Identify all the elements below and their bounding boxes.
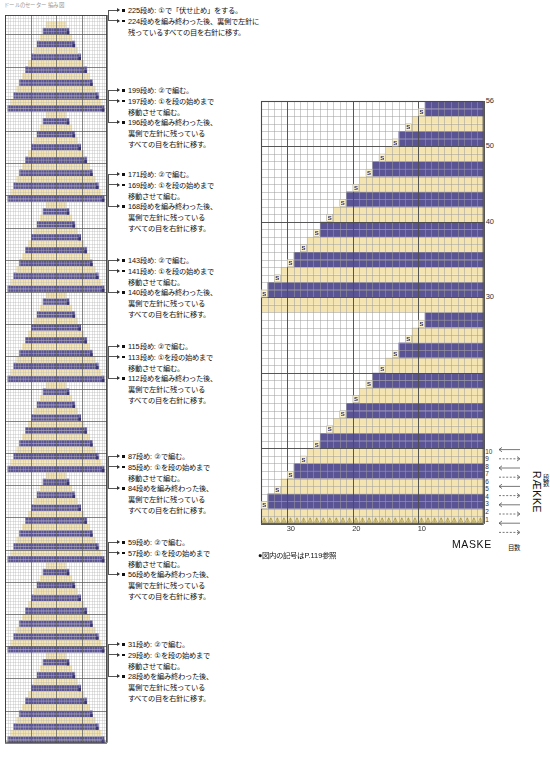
ann-225-arrow-0: [117, 8, 120, 12]
ann-199-line-2: 移動させて編む。: [122, 108, 217, 119]
y-tick-56: 56: [486, 96, 494, 105]
ann-143-line-0: 143段め: ②で編む。: [122, 256, 217, 267]
ann-59-line-0: 59段め: ②で編む。: [122, 538, 213, 549]
ann-225-leader-v-1: [108, 10, 109, 21]
ann-59-line-4: 裏側で左針に残っている: [122, 581, 213, 592]
ann-59-line-2: 移動させて編む。: [122, 560, 213, 571]
ann-87-arrow-0: [117, 454, 120, 458]
x-tick-30: 30: [287, 524, 295, 533]
top-note: ドールのセーター 編み図: [4, 1, 64, 9]
ann-31-line-1: 29段め: ①を段の始めまで: [122, 651, 213, 662]
ann-225-line-2: 残っているすべての目を右針に移す。: [122, 28, 259, 39]
ann-59-leader-v-2: [108, 542, 109, 574]
y-axis-title-sub: 段数: [541, 474, 550, 486]
ann-31-line-2: 移動させて編む。: [122, 662, 213, 673]
ann-59-line-3: 56段めを編み終わった後、: [122, 570, 213, 581]
ann-171-line-1: 169段め: ①を段の始めまで: [122, 181, 217, 192]
ann-87-line-1: 85段め: ①を段の始めまで: [122, 463, 213, 474]
ann-199-leader-v-2: [108, 90, 109, 122]
y-tick-50: 50: [486, 141, 494, 150]
ann-143-leader-v-2: [108, 260, 109, 292]
y-minor-tick-9: 9: [485, 455, 489, 462]
ann-171-arrow-0: [117, 172, 120, 176]
ann-115: 115段め: ②で編む。113段め: ①を段の始めまで移動させて編む。112段め…: [122, 342, 217, 407]
y-minor-tick-6: 6: [485, 478, 489, 485]
y-minor-tick-2: 2: [485, 508, 489, 515]
y-minor-tick-3: 3: [485, 500, 489, 507]
ann-199-arrow-0: [117, 88, 120, 92]
ann-225-line-0: 225段め: ①で「伏せ止め」をする。: [122, 6, 259, 17]
ann-31-line-3: 28段めを編み終わった後、: [122, 672, 213, 683]
ann-143: 143段め: ②で編む。141段め: ①を段の始めまで移動させて編む。140段め…: [122, 256, 217, 321]
ann-59: 59段め: ②で編む。57段め: ①を段の始めまで移動させて編む。56段めを編み…: [122, 538, 213, 603]
ann-199-line-1: 197段め: ①を段の始めまで: [122, 97, 217, 108]
ann-199-line-5: すべての目を右針に移す。: [122, 140, 217, 151]
ann-225-line-1: 224段めを編み終わった後、裏側で左針に: [122, 17, 259, 28]
ann-199-arrow-1: [117, 99, 120, 103]
ann-87-line-5: すべての目を右針に移す。: [122, 506, 213, 517]
ann-143-line-5: すべての目を右針に移す。: [122, 310, 217, 321]
ann-199-line-0: 199段め: ②で編む。: [122, 86, 217, 97]
x-axis-title: MASKE: [452, 538, 492, 550]
y-minor-tick-4: 4: [485, 493, 489, 500]
ann-199-arrow-2: [117, 120, 120, 124]
ann-115-arrow-1: [117, 355, 120, 359]
ann-115-arrow-2: [117, 376, 120, 380]
ann-31: 31段め: ②で編む。29段め: ①を段の始めまで移動させて編む。28段めを編み…: [122, 640, 213, 705]
y-minor-tick-8: 8: [485, 463, 489, 470]
y-tick-40: 40: [486, 217, 494, 226]
ann-31-line-5: すべての目を右針に移す。: [122, 694, 213, 705]
ann-31-line-0: 31段め: ②で編む。: [122, 640, 213, 651]
y-minor-tick-10: 10: [485, 448, 492, 455]
ann-115-line-0: 115段め: ②で編む。: [122, 342, 217, 353]
ann-59-arrow-0: [117, 540, 120, 544]
x-tick-10: 10: [418, 524, 426, 533]
main-pattern-chart: [260, 100, 485, 525]
ann-87-line-0: 87段め: ②で編む。: [122, 452, 213, 463]
ann-87-line-2: 移動させて編む。: [122, 474, 213, 485]
ann-87-arrow-1: [117, 465, 120, 469]
ann-171-arrow-2: [117, 204, 120, 208]
ann-31-line-4: 裏側で左針に残っている: [122, 683, 213, 694]
symbol-reference-note: ●図内の記号はP.119参照: [258, 549, 336, 560]
ann-143-line-3: 140段めを編み終わった後、: [122, 288, 217, 299]
ann-171-arrow-1: [117, 183, 120, 187]
ann-87: 87段め: ②で編む。85段め: ①を段の始めまで移動させて編む。84段めを編み…: [122, 452, 213, 517]
ann-115-arrow-0: [117, 344, 120, 348]
ann-225: 225段め: ①で「伏せ止め」をする。224段めを編み終わった後、裏側で左針に残…: [122, 6, 259, 38]
ann-171-line-4: 裏側で左針に残っている: [122, 213, 217, 224]
ann-225-arrow-1: [117, 19, 120, 23]
ann-31-arrow-2: [117, 674, 120, 678]
ann-171-line-3: 168段めを編み終わった後、: [122, 202, 217, 213]
ann-31-leader-v-2: [108, 644, 109, 676]
ann-115-line-1: 113段め: ①を段の始めまで: [122, 353, 217, 364]
y-tick-30: 30: [486, 292, 494, 301]
ann-87-line-3: 84段めを編み終わった後、: [122, 484, 213, 495]
ann-171-line-5: すべての目を右針に移す。: [122, 224, 217, 235]
ann-31-arrow-1: [117, 653, 120, 657]
ann-87-arrow-2: [117, 486, 120, 490]
ann-59-arrow-1: [117, 551, 120, 555]
ann-171-line-2: 移動させて編む。: [122, 192, 217, 203]
ann-59-line-5: すべての目を右針に移す。: [122, 592, 213, 603]
ann-115-line-2: 移動させて編む。: [122, 364, 217, 375]
ann-143-line-4: 裏側で左針に残っている: [122, 299, 217, 310]
ann-171: 171段め: ②で編む。169段め: ①を段の始めまで移動させて編む。168段め…: [122, 170, 217, 235]
knitting-direction-arrows: [497, 445, 523, 537]
ann-143-arrow-2: [117, 290, 120, 294]
ann-115-leader-v-2: [108, 346, 109, 378]
ann-31-arrow-0: [117, 642, 120, 646]
ann-171-line-0: 171段め: ②で編む。: [122, 170, 217, 181]
ann-143-arrow-1: [117, 269, 120, 273]
ann-199: 199段め: ②で編む。197段め: ①を段の始めまで移動させて編む。196段め…: [122, 86, 217, 151]
ann-59-arrow-2: [117, 572, 120, 576]
ann-199-line-4: 裏側で左針に残っている: [122, 129, 217, 140]
x-axis-title-sub: 目数: [508, 543, 520, 552]
ann-143-arrow-0: [117, 258, 120, 262]
ann-87-leader-v-2: [108, 456, 109, 488]
ann-171-leader-v-2: [108, 174, 109, 206]
y-minor-tick-5: 5: [485, 485, 489, 492]
ann-143-line-1: 141段め: ①を段の始めまで: [122, 267, 217, 278]
ann-115-line-3: 112段めを編み終わった後、: [122, 374, 217, 385]
